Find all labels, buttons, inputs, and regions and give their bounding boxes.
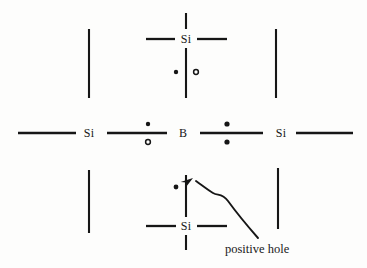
callout-arrow-curve [196, 181, 258, 238]
callout-arrow-group [181, 178, 258, 238]
electron-dot-filled [146, 122, 150, 126]
atom-label-si-top: Si [181, 33, 191, 45]
electron-dot-filled [224, 139, 229, 144]
electron-dot-hollow [146, 140, 151, 145]
electron-dot-filled [174, 70, 178, 74]
doping-diagram: SiSiBSiSi positive hole [0, 0, 367, 268]
electrons-group [146, 70, 230, 190]
atom-label-si-left: Si [84, 127, 94, 139]
electron-dot-hollow [194, 70, 199, 75]
atom-label-boron: B [179, 127, 187, 139]
atom-label-si-bottom: Si [181, 220, 191, 232]
electron-dot-filled [224, 121, 229, 126]
atom-label-si-right: Si [276, 127, 286, 139]
positive-hole-label: positive hole [225, 243, 289, 256]
electron-dot-filled [174, 185, 179, 190]
